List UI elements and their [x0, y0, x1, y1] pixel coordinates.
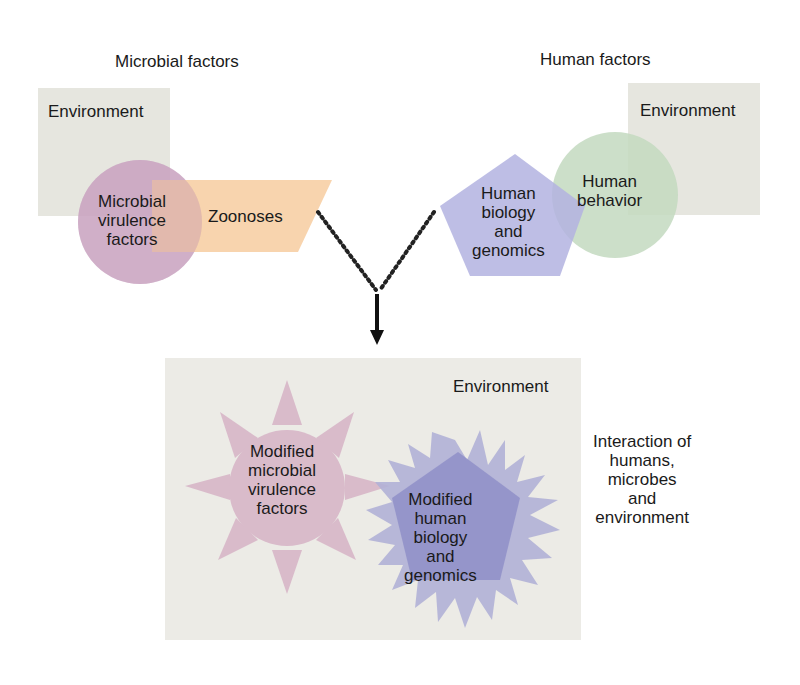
interaction-caption: Interaction ofhumans,microbesandenvironm…: [593, 432, 691, 527]
left-dotted-connector: [318, 212, 376, 290]
microbial-virulence-label: Microbialvirulencefactors: [98, 192, 166, 249]
modified-human-label: Modifiedhumanbiologyandgenomics: [404, 490, 477, 585]
combined-environment-label: Environment: [453, 377, 548, 396]
human-environment-label: Environment: [640, 101, 735, 120]
down-arrow-head: [370, 330, 384, 345]
human-behavior-label: Humanbehavior: [577, 172, 642, 210]
zoonoses-label: Zoonoses: [208, 207, 283, 226]
right-dotted-connector: [380, 212, 434, 290]
human-factors-heading: Human factors: [540, 50, 651, 69]
microbial-factors-heading: Microbial factors: [115, 52, 239, 71]
microbial-environment-label: Environment: [48, 102, 143, 121]
modified-microbial-label: Modifiedmicrobialvirulencefactors: [248, 442, 316, 518]
human-biology-label: Humanbiologyandgenomics: [472, 184, 545, 260]
